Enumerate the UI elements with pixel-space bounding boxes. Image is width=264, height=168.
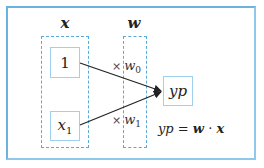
- equation: yp = w · x: [158, 121, 224, 136]
- multiply-sign: ×: [112, 114, 121, 127]
- connection-arrows: [0, 0, 264, 168]
- weight-w1: ×w1: [112, 113, 141, 129]
- weight-w0: ×w0: [112, 59, 141, 75]
- multiply-sign: ×: [112, 60, 121, 73]
